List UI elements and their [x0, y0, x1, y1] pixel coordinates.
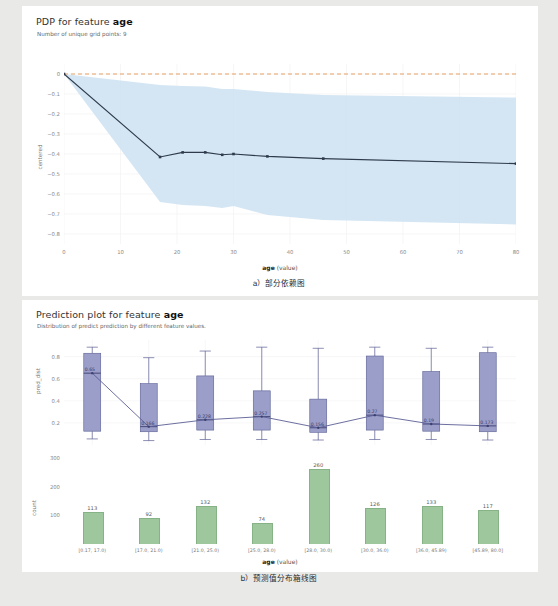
boxplot-y-tick: 0.2 — [34, 420, 60, 426]
pdp-x-tick: 50 — [335, 249, 359, 255]
boxplot-y-tick: 0.4 — [34, 398, 60, 404]
pdp-svg — [64, 64, 516, 244]
pdp-title-prefix: PDP for feature — [36, 16, 113, 27]
pred-subtitle: Distribution of predict prediction by di… — [37, 323, 206, 329]
pdp-title-feature: age — [113, 16, 133, 27]
pred-x-axis-unit: (value) — [275, 558, 298, 565]
count-bar — [252, 523, 273, 544]
bin-tick-label: [25.0, 28.0) — [234, 548, 290, 553]
pdp-y-tick: −0.8 — [36, 231, 60, 237]
pred-title-feature: age — [164, 309, 184, 320]
pdp-y-tick: −0.3 — [36, 131, 60, 137]
count-bar — [365, 508, 386, 544]
count-bar-label: 260 — [298, 462, 338, 468]
boxplot-median-label: 0.19 — [424, 418, 434, 423]
count-bar — [139, 518, 160, 544]
count-bar — [422, 506, 443, 544]
bin-tick-label: [30.0, 36.0) — [347, 548, 403, 553]
pdp-caption: a）部分依赖图 — [0, 277, 558, 288]
count-bar-label: 126 — [355, 501, 395, 507]
count-y-tick: 300 — [34, 455, 60, 461]
pdp-subtitle: Number of unique grid points: 9 — [37, 31, 127, 37]
bin-tick-label: [28.0, 30.0) — [290, 548, 346, 553]
count-bar-label: 92 — [129, 511, 169, 517]
boxplot-y-tick: 0.6 — [34, 376, 60, 382]
pdp-y-tick: −0.1 — [36, 91, 60, 97]
boxplot-median-label: 0.257 — [254, 411, 267, 416]
pdp-x-tick: 70 — [448, 249, 472, 255]
boxplot-area — [64, 340, 516, 445]
count-bar — [196, 506, 217, 544]
pred-title: Prediction plot for feature age — [36, 309, 184, 320]
pdp-x-tick: 20 — [165, 249, 189, 255]
pdp-plot-area — [64, 64, 516, 244]
pdp-y-tick: −0.4 — [36, 151, 60, 157]
count-bar-label: 117 — [468, 503, 508, 509]
count-bar — [478, 510, 499, 544]
boxplot-median-label: 0.65 — [85, 367, 95, 372]
pdp-x-tick: 40 — [278, 249, 302, 255]
boxplot-median-label: 0.173 — [480, 420, 493, 425]
bin-tick-label: [45.89, 80.0] — [460, 548, 516, 553]
pdp-chart-card: PDP for feature age Number of unique gri… — [22, 6, 538, 296]
boxplot-median-label: 0.156 — [311, 422, 324, 427]
count-bar-label: 132 — [185, 499, 225, 505]
count-bar-label: 74 — [242, 516, 282, 522]
boxplot-median-label: 0.27 — [367, 409, 377, 414]
pdp-title: PDP for feature age — [36, 16, 133, 27]
pdp-x-tick: 30 — [222, 249, 246, 255]
boxplot-median-label: 0.228 — [198, 414, 211, 419]
boxplot-y-tick: 0.8 — [34, 354, 60, 360]
pred-caption: b）预测值分布箱线图 — [0, 572, 558, 583]
pdp-x-tick: 80 — [504, 249, 528, 255]
pdp-y-tick: −0.6 — [36, 191, 60, 197]
count-y-tick: 200 — [34, 484, 60, 490]
pdp-x-tick: 10 — [109, 249, 133, 255]
pred-x-axis-label: age (value) — [22, 558, 538, 565]
bin-tick-label: [36.0, 45.89) — [403, 548, 459, 553]
pred-title-prefix: Prediction plot for feature — [36, 309, 164, 320]
bin-tick-label: [0.17, 17.0) — [64, 548, 120, 553]
bin-tick-label: [21.0, 25.0) — [177, 548, 233, 553]
pdp-x-tick: 0 — [52, 249, 76, 255]
pdp-x-tick: 60 — [391, 249, 415, 255]
pred-x-axis-feature: age — [262, 558, 274, 565]
pdp-x-axis-label: age (value) — [22, 264, 538, 271]
boxplot-median-label: 0.166 — [141, 421, 154, 426]
bin-tick-label: [17.0, 21.0) — [121, 548, 177, 553]
pdp-y-tick: −0.7 — [36, 211, 60, 217]
pdp-y-tick: −0.2 — [36, 111, 60, 117]
pdp-x-axis-feature: age — [262, 264, 274, 271]
count-bar — [83, 512, 104, 545]
prediction-chart-card: Prediction plot for feature age Distribu… — [22, 300, 538, 572]
count-y-tick: 100 — [34, 512, 60, 518]
pdp-y-tick: −0.5 — [36, 171, 60, 177]
count-bar-label: 113 — [72, 505, 112, 511]
pdp-x-axis-unit: (value) — [275, 264, 298, 271]
pdp-y-tick: 0 — [36, 71, 60, 77]
count-bar-label: 133 — [411, 499, 451, 505]
boxplot-svg — [64, 340, 516, 445]
count-bar — [309, 469, 330, 544]
figure-page: PDP for feature age Number of unique gri… — [0, 0, 558, 606]
